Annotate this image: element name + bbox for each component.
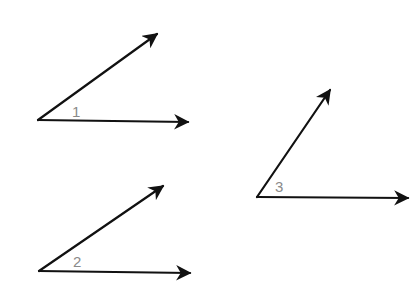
angle-1-ray-b-arrow-icon <box>38 120 188 122</box>
angle-2-ray-b-arrow-icon <box>39 271 190 273</box>
angle-3-ray-b-arrow-icon <box>257 197 408 198</box>
angle-label: 2 <box>73 253 81 270</box>
angles-group: 123 <box>38 34 408 273</box>
angle-label: 1 <box>72 103 80 120</box>
angle-3: 3 <box>257 90 408 198</box>
angle-2-ray-a-arrow-icon <box>39 186 163 271</box>
angle-label: 3 <box>275 178 283 195</box>
angle-1: 1 <box>38 34 188 122</box>
angle-1-ray-a-arrow-icon <box>38 34 157 120</box>
angles-diagram: 123 <box>0 0 420 302</box>
angle-3-ray-a-arrow-icon <box>257 90 330 197</box>
angle-2: 2 <box>39 186 190 273</box>
